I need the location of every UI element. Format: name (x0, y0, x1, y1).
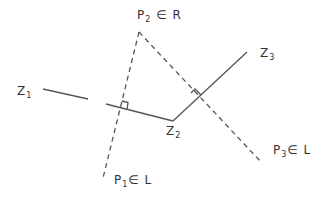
label-z3-main: Z (260, 46, 269, 60)
label-p1: P1∈ L (114, 173, 152, 189)
label-z1: Z1 (17, 84, 32, 100)
label-z2: Z2 (166, 124, 181, 140)
z1-z2-segment (106, 104, 173, 121)
label-z3-sub: 3 (269, 53, 275, 62)
z1-segment-left (43, 89, 88, 99)
diagram-canvas (0, 0, 334, 201)
p2-p3-dashed-line (139, 32, 262, 163)
label-z3: Z3 (260, 46, 275, 62)
label-p3-rest: ∈ L (287, 143, 311, 157)
label-p2: P2 ∈ R (137, 8, 182, 24)
label-p1-rest: ∈ L (128, 173, 152, 187)
label-p3: P3∈ L (273, 143, 311, 159)
label-p3-main: P (273, 143, 281, 157)
label-p1-main: P (114, 173, 122, 187)
label-z2-main: Z (166, 124, 175, 138)
label-p2-rest: ∈ R (151, 8, 181, 22)
label-z2-sub: 2 (175, 131, 181, 140)
label-p2-main: P (137, 8, 145, 22)
z2-z3-segment (173, 52, 247, 121)
label-z1-main: Z (17, 84, 26, 98)
label-z1-sub: 1 (26, 91, 32, 100)
